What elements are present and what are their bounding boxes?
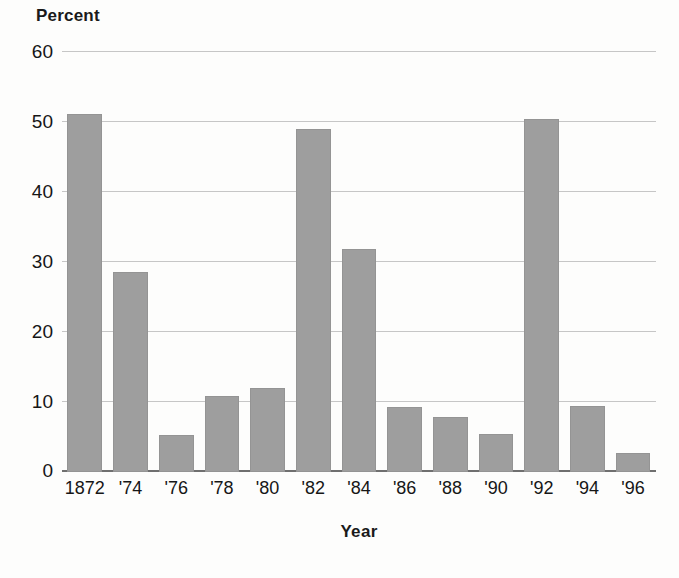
bar-slot [610, 52, 656, 472]
bar[interactable] [524, 119, 559, 472]
x-tick-slot: '88 [428, 478, 474, 499]
bar[interactable] [296, 129, 331, 472]
y-axis-tick-label: 0 [42, 461, 53, 480]
bar[interactable] [67, 114, 102, 472]
bar-slot [199, 52, 245, 472]
bar[interactable] [387, 407, 422, 472]
bar-slot [290, 52, 336, 472]
x-tick-slot: '90 [473, 478, 519, 499]
x-tick-slot: 1872 [62, 478, 108, 499]
y-axis-tick-label: 30 [32, 252, 53, 271]
x-axis-tick-labels: 1872'74'76'78'80'82'84'86'88'90'92'94'96 [62, 478, 656, 499]
bar-slot [153, 52, 199, 472]
x-tick-slot: '84 [336, 478, 382, 499]
bar-slot [108, 52, 154, 472]
bar-chart-figure: Percent 0102030405060 1872'74'76'78'80'8… [0, 0, 679, 578]
bar-slot [428, 52, 474, 472]
x-tick-slot: '76 [153, 478, 199, 499]
x-axis-title: Year [62, 522, 656, 542]
bar[interactable] [342, 249, 377, 472]
x-axis-tick-label: '78 [210, 478, 233, 498]
x-tick-slot: '96 [610, 478, 656, 499]
bar[interactable] [570, 406, 605, 472]
x-tick-slot: '94 [565, 478, 611, 499]
x-axis-tick-label: 1872 [65, 478, 105, 498]
bar[interactable] [479, 434, 514, 472]
x-tick-slot: '82 [290, 478, 336, 499]
y-axis-tick-label: 50 [32, 112, 53, 131]
x-axis-tick-label: '92 [530, 478, 553, 498]
bar-slot [62, 52, 108, 472]
bar-slot [336, 52, 382, 472]
bars-series [62, 52, 656, 472]
x-axis-tick-label: '76 [164, 478, 187, 498]
bar-slot [519, 52, 565, 472]
bar-slot [565, 52, 611, 472]
plot-area: 0102030405060 [62, 52, 656, 472]
x-tick-slot: '92 [519, 478, 565, 499]
x-axis-tick-label: '90 [484, 478, 507, 498]
bar-slot [245, 52, 291, 472]
x-axis-tick-label: '88 [439, 478, 462, 498]
x-axis-tick-label: '96 [621, 478, 644, 498]
x-axis-tick-label: '94 [576, 478, 599, 498]
y-axis-tick-label: 20 [32, 322, 53, 341]
bar-slot [382, 52, 428, 472]
y-axis-tick-label: 60 [32, 42, 53, 61]
bar[interactable] [250, 388, 285, 472]
x-tick-slot: '80 [245, 478, 291, 499]
y-axis-tick-label: 40 [32, 182, 53, 201]
y-axis-tick-label: 10 [32, 392, 53, 411]
bar[interactable] [616, 453, 651, 472]
x-tick-slot: '74 [108, 478, 154, 499]
bar[interactable] [113, 272, 148, 472]
x-axis-tick-label: '86 [393, 478, 416, 498]
bar-slot [473, 52, 519, 472]
bar[interactable] [433, 417, 468, 472]
x-axis-tick-label: '82 [302, 478, 325, 498]
x-axis-tick-label: '84 [347, 478, 370, 498]
bar[interactable] [205, 396, 240, 472]
y-axis-unit-label: Percent [36, 6, 100, 26]
x-tick-slot: '78 [199, 478, 245, 499]
x-tick-slot: '86 [382, 478, 428, 499]
x-axis-tick-label: '80 [256, 478, 279, 498]
x-axis-tick-label: '74 [119, 478, 142, 498]
bar[interactable] [159, 435, 194, 472]
